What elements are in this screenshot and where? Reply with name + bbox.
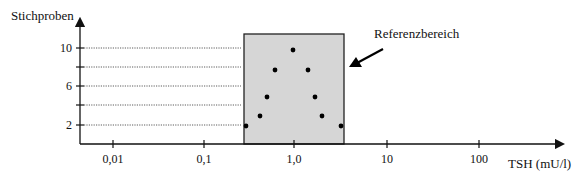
xtick-label-1-0: 1,0	[287, 152, 302, 166]
tsh-reference-chart: Stichproben TSH (mU/l) Referenzbereich 1…	[0, 0, 579, 176]
xtick-label-0-1: 0,1	[197, 152, 212, 166]
ytick-label-2: 2	[66, 118, 72, 132]
grid-lines	[84, 48, 241, 125]
x-axis-label: TSH (mU/l)	[508, 156, 571, 171]
xtick-label-0-01: 0,01	[103, 152, 124, 166]
y-axis-label: Stichproben	[11, 8, 74, 23]
annotation-arrow-icon	[357, 49, 383, 63]
ytick-label-6: 6	[66, 79, 72, 93]
xtick-label-10: 10	[381, 152, 393, 166]
xtick-label-100: 100	[470, 152, 488, 166]
ytick-label-10: 10	[60, 41, 72, 55]
annotation-label: Referenzbereich	[374, 26, 460, 41]
